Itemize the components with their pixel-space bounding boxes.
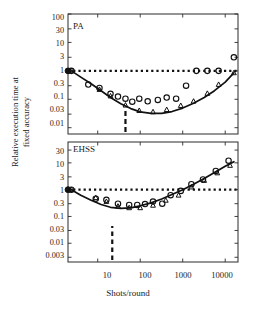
xtick-1: 100	[125, 270, 165, 280]
ytick-lower-1: 10	[22, 160, 64, 169]
panel-frame	[68, 14, 238, 134]
series-model-curve	[71, 71, 234, 113]
ytick-upper-0: 100	[22, 13, 64, 22]
ytick-upper-1: 30	[22, 26, 64, 35]
x-axis-title: Shots/round	[0, 288, 256, 298]
ytick-lower-0: 30	[22, 147, 64, 156]
ytick-lower-3: 1	[22, 186, 64, 195]
data-point-triangle	[93, 195, 98, 199]
panel-ehss	[65, 142, 238, 262]
ytick-upper-8: 0.01	[22, 119, 64, 128]
chart-figure: Relative execution time at fixed accurac…	[0, 0, 256, 310]
data-point-circle	[115, 94, 120, 99]
ytick-lower-2: 3	[22, 173, 64, 182]
ytick-upper-5: 0.3	[22, 79, 64, 88]
data-point-circle	[173, 96, 178, 101]
ytick-upper-6: 0.1	[22, 92, 64, 101]
data-point-triangle	[164, 107, 169, 111]
data-point-circle	[137, 96, 142, 101]
data-point-circle	[155, 97, 160, 102]
ytick-lower-5: 0.1	[22, 212, 64, 221]
ytick-upper-3: 3	[22, 52, 64, 61]
data-point-circle	[123, 96, 128, 101]
ytick-lower-6: 0.03	[22, 225, 64, 234]
data-point-triangle	[216, 82, 221, 86]
y-axis-title-line1: Relative execution time at	[10, 42, 21, 202]
ytick-lower-4: 0.3	[22, 199, 64, 208]
ytick-lower-7: 0.01	[22, 238, 64, 247]
xtick-0: 10	[87, 270, 127, 280]
data-point-circle	[164, 95, 169, 100]
ytick-upper-4: 1	[22, 66, 64, 75]
ytick-lower-8: 0.003	[22, 251, 64, 260]
xtick-3: 10000	[202, 270, 242, 280]
anchor-marker	[65, 187, 71, 193]
data-point-circle	[145, 99, 150, 104]
ytick-upper-2: 10	[22, 39, 64, 48]
panel-label-lower: EHSS	[73, 144, 95, 154]
ytick-upper-7: 0.03	[22, 105, 64, 114]
data-point-triangle	[178, 103, 183, 107]
panel-pa	[65, 14, 238, 134]
data-point-circle	[183, 83, 188, 88]
panel-label-upper: PA	[73, 21, 84, 31]
anchor-marker	[65, 68, 71, 74]
data-point-circle	[130, 99, 135, 104]
xtick-2: 1000	[163, 270, 203, 280]
